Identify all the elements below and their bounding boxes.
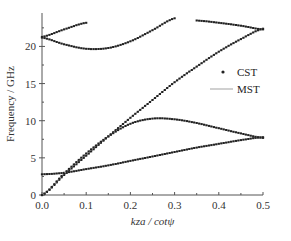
cst-points	[41, 136, 264, 175]
y-tick-label: 0	[31, 189, 37, 201]
mst-curve	[42, 29, 263, 195]
legend-cst-label: CST	[237, 66, 257, 78]
y-tick-label: 15	[25, 78, 37, 90]
x-tick-label: 0.4	[212, 199, 226, 211]
y-tick-label: 5	[31, 152, 37, 164]
x-tick-label: 0.3	[168, 199, 182, 211]
legend-mst-label: MST	[237, 83, 260, 95]
curves	[41, 17, 264, 196]
cst-points	[196, 20, 265, 31]
x-tick-label: 0.5	[256, 199, 270, 211]
x-tick-label: 0.2	[124, 199, 138, 211]
legend: CSTMST	[210, 66, 260, 95]
x-tick-label: 0.1	[79, 199, 93, 211]
y-axis-label: Frequency / GHz	[4, 66, 16, 142]
cst-points	[41, 17, 176, 50]
dispersion-chart: 0.00.10.20.30.40.505101520 kza / cotψFre…	[0, 0, 291, 241]
legend-cst-marker	[221, 70, 224, 73]
y-tick-label: 10	[25, 115, 37, 127]
cst-points	[41, 22, 87, 38]
x-axis-label: kza / cotψ	[131, 215, 175, 227]
x-tick-label: 0.0	[35, 199, 49, 211]
y-tick-label: 20	[25, 40, 37, 52]
